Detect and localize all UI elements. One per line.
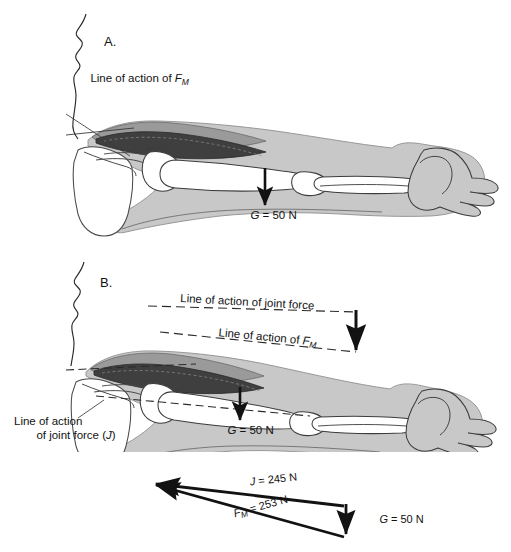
weight-vector-label: G = 50 N [358,513,439,525]
panel-b-label: B. [100,275,112,290]
panel-a-weight-label: G = 50 N [228,209,313,221]
panel-b-joint-force-label-line2: of joint force (J) [14,429,132,441]
scapula-bone [73,147,133,236]
panel-b-joint-force-label-line1: Line of action [14,415,82,427]
biomechanics-figure: A. Line of action of FM G = 50 N [0,0,511,552]
panel-b-weight-label: G = 50 N [205,424,290,436]
panel-a-label: A. [104,34,116,49]
